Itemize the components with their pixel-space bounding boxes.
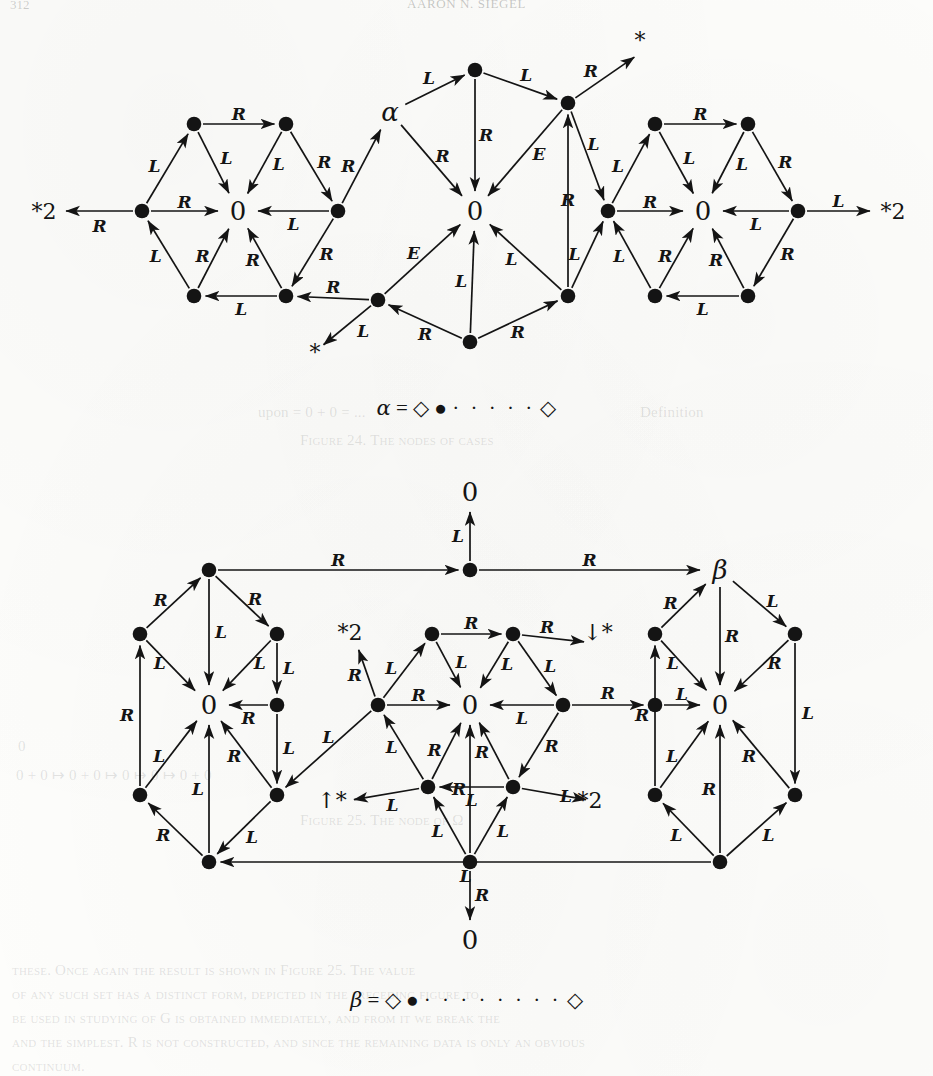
- edge-label-l: L: [451, 526, 464, 546]
- edge-label-l: L: [665, 746, 678, 766]
- edge-label-r: R: [247, 589, 262, 609]
- edge-label-l: L: [384, 658, 397, 678]
- graph-node-dot: [270, 698, 285, 713]
- edge-label-l: L: [282, 658, 295, 678]
- edge-label-l: L: [385, 737, 398, 757]
- edge-label-l: L: [214, 622, 227, 642]
- edge-label-r: R: [463, 613, 478, 633]
- graph-edge: [217, 801, 270, 854]
- edge-label-l: L: [191, 779, 204, 799]
- left-diamond: ◇: [385, 988, 401, 1012]
- edge-label-r: R: [581, 550, 596, 570]
- graph-node-dot: [425, 627, 440, 642]
- edge-label-l: L: [515, 708, 528, 728]
- graph-node-dot: [788, 627, 803, 642]
- graph-node-dot: [270, 788, 285, 803]
- terminal-label: *2: [338, 620, 363, 645]
- graph-node-dot: [556, 698, 571, 713]
- edge-label-l: L: [253, 653, 266, 673]
- graph-node-dot: [648, 698, 663, 713]
- edge-label-l: L: [386, 795, 399, 815]
- graph-node-dot: [133, 788, 148, 803]
- terminal-label: ↓*: [583, 620, 612, 645]
- edge-label-r: R: [474, 885, 489, 905]
- filled-dot: ●: [406, 988, 419, 1012]
- edge-label-l: L: [454, 652, 467, 672]
- edge-label-r: R: [226, 746, 241, 766]
- edge-label-r: R: [724, 626, 739, 646]
- terminal-label: *2: [578, 788, 603, 813]
- edge-label-l: L: [500, 654, 513, 674]
- graph-node-dot: [371, 698, 386, 713]
- graph-node-dot: [463, 563, 478, 578]
- graph-node-beta: β: [711, 555, 727, 585]
- graph-node-dot: [648, 627, 663, 642]
- graph-node-dot: [506, 780, 521, 795]
- edge-label-r: R: [741, 746, 756, 766]
- graph-node-dot: [133, 627, 148, 642]
- graph-edge: [286, 711, 372, 787]
- edge-label-l: L: [152, 746, 165, 766]
- figure-bottom-diagram: LRRRRLLLLRRLLRRLLLLRLLRLRLRLLRRRLLRLLRRR…: [0, 0, 933, 1076]
- graph-edge: [522, 789, 586, 800]
- edge-label-r: R: [600, 683, 615, 703]
- edge-label-r: R: [347, 665, 362, 685]
- edge-label-l: L: [766, 591, 779, 611]
- edge-label-l: L: [762, 825, 775, 845]
- graph-edge: [727, 803, 787, 856]
- edge-label-r: R: [539, 617, 554, 637]
- graph-node-dot: [788, 788, 803, 803]
- edge-label-r: R: [451, 779, 466, 799]
- edge-label-l: L: [675, 684, 688, 704]
- edge-label-l: L: [321, 727, 334, 747]
- graph-node-zero: 0: [201, 690, 218, 720]
- edge-label-l: L: [465, 790, 478, 810]
- edge-label-l: L: [282, 738, 295, 758]
- graph-node-dot: [648, 788, 663, 803]
- edge-label-l: L: [669, 825, 682, 845]
- edge-label-r: R: [155, 825, 170, 845]
- graph-node-dot: [202, 563, 217, 578]
- edge-label-r: R: [544, 736, 559, 756]
- edge-label-r: R: [153, 590, 168, 610]
- edge-label-r: R: [766, 653, 781, 673]
- edge-label-l: L: [245, 827, 258, 847]
- terminal-label: ↑*: [317, 788, 346, 813]
- edge-label-r: R: [410, 685, 425, 705]
- graph-node-dot: [463, 855, 478, 870]
- edge-label-r: R: [663, 593, 678, 613]
- edge-label-r: R: [474, 742, 489, 762]
- graph-node-zero: 0: [462, 477, 479, 507]
- edge-label-l: L: [801, 703, 814, 723]
- edge-label-r: R: [240, 708, 255, 728]
- beta-symbol: β: [350, 988, 362, 1012]
- graph-node-dot: [506, 627, 521, 642]
- edge-label-r: R: [426, 740, 441, 760]
- edge-label-l: L: [666, 653, 679, 673]
- edge-label-l: L: [153, 653, 166, 673]
- graph-node-zero: 0: [712, 690, 729, 720]
- edge-label-l: L: [431, 821, 444, 841]
- graph-node-zero: 0: [462, 925, 479, 955]
- edge-label-r: R: [701, 779, 716, 799]
- edge-label-r: R: [634, 705, 649, 725]
- edge-label-l: L: [559, 786, 572, 806]
- equals-sign: =: [368, 988, 380, 1012]
- right-diamond: ◇: [567, 988, 583, 1012]
- graph-node-dot: [421, 780, 436, 795]
- graph-node-zero: 0: [462, 690, 479, 720]
- dot-sequence: · · · · · · · ·: [424, 988, 562, 1012]
- edge-label-r: R: [330, 550, 345, 570]
- edge-label-l: L: [543, 656, 556, 676]
- graph-node-dot: [270, 627, 285, 642]
- edge-label-r: R: [119, 705, 134, 725]
- graph-node-dot: [713, 855, 728, 870]
- graph-node-dot: [202, 855, 217, 870]
- figure-bottom-caption: β = ◇ ● · · · · · · · · ◇: [0, 988, 933, 1013]
- edge-label-l: L: [496, 821, 509, 841]
